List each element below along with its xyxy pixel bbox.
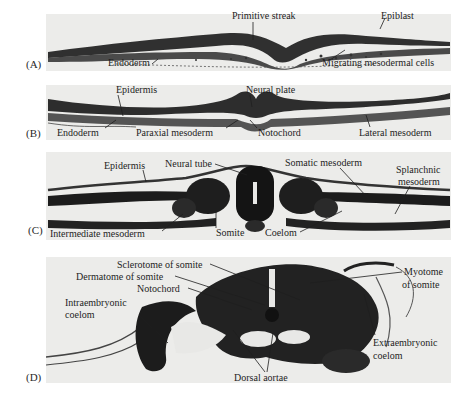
label-myotome-line2: of somite [402, 279, 440, 290]
label-epiblast: Epiblast [381, 10, 414, 21]
label-endoderm-a: Endoderm [108, 57, 150, 68]
label-neural-tube: Neural tube [165, 158, 212, 169]
label-coelom: Coelom [265, 227, 297, 238]
label-myotome-line1: Myotome [404, 266, 443, 277]
label-notochord-b: Notochord [258, 127, 301, 138]
panel-letter-c: (C) [28, 224, 43, 236]
label-epidermis-c: Epidermis [104, 160, 145, 171]
panel-letter-d: (D) [26, 371, 41, 383]
label-dorsal-aortae: Dorsal aortae [234, 372, 288, 383]
label-somite: Somite [216, 227, 244, 238]
label-splanchnic-mesoderm-line1: Splanchnic [396, 164, 440, 175]
label-paraxial-mesoderm: Paraxial mesoderm [136, 127, 213, 138]
label-intraembryonic-coelom-line1: Intraembryonic [65, 297, 127, 308]
panel-letter-b: (B) [26, 127, 41, 139]
label-primitive-streak: Primitive streak [232, 10, 296, 21]
label-intermediate-mesoderm: Intermediate mesoderm [50, 228, 145, 239]
panel-letter-a: (A) [26, 58, 41, 70]
label-dermatome-of-somite: Dermatome of somite [76, 271, 163, 282]
label-lateral-mesoderm: Lateral mesoderm [359, 127, 431, 138]
label-splanchnic-mesoderm-line2: mesoderm [398, 176, 440, 187]
label-intraembryonic-coelom-line2: coelom [65, 309, 94, 320]
label-migrating-mesodermal-cells: Migrating mesodermal cells [322, 57, 434, 68]
label-neural-plate: Neural plate [246, 84, 295, 95]
label-extraembryonic-coelom-line1: Extraembryonic [373, 337, 437, 348]
label-notochord-d: Notochord [137, 283, 180, 294]
label-endoderm-b: Endoderm [57, 127, 99, 138]
label-somatic-mesoderm: Somatic mesoderm [285, 157, 362, 168]
label-epidermis-b: Epidermis [116, 84, 157, 95]
label-extraembryonic-coelom-line2: coelom [373, 350, 402, 361]
label-sclerotome-of-somite: Sclerotome of somite [117, 259, 203, 270]
